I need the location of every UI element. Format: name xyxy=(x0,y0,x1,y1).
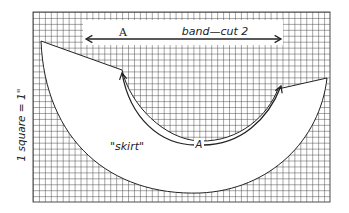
scale-label: 1 square = 1" xyxy=(15,88,27,161)
seam-marker-a: A xyxy=(195,139,203,150)
skirt-label: "skirt" xyxy=(110,140,144,153)
band-marker-a: A xyxy=(118,26,128,39)
band-piece: A band—cut 2 xyxy=(83,20,283,45)
band-label: band—cut 2 xyxy=(182,25,249,38)
pattern-diagram: A band—cut 2 A "skirt" 1 square = 1" xyxy=(0,0,349,213)
